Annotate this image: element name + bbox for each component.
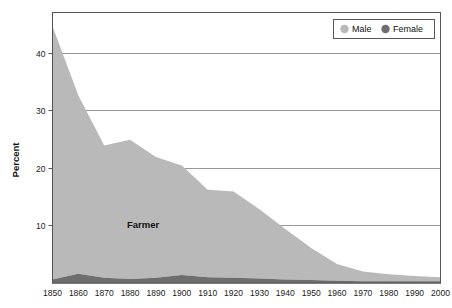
x-tick-label: 1920 bbox=[224, 288, 243, 298]
legend-label-male[interactable]: Male bbox=[352, 24, 372, 34]
farmer-occupation-area-chart: 10203040 1850186018701880189019001910192… bbox=[0, 0, 452, 308]
x-tick-label: 1850 bbox=[43, 288, 62, 298]
legend-label-female[interactable]: Female bbox=[393, 24, 423, 34]
chart-canvas: 10203040 1850186018701880189019001910192… bbox=[0, 0, 452, 308]
x-tick-label: 2000 bbox=[431, 288, 450, 298]
x-tick-label: 1910 bbox=[198, 288, 217, 298]
x-tick-label: 1990 bbox=[405, 288, 424, 298]
y-tick-label: 40 bbox=[36, 49, 46, 59]
x-tick-label: 1860 bbox=[69, 288, 88, 298]
x-tick-label: 1950 bbox=[302, 288, 321, 298]
legend-marker-female-icon bbox=[381, 25, 389, 33]
x-tick-label: 1890 bbox=[147, 288, 166, 298]
x-tick-label: 1980 bbox=[379, 288, 398, 298]
x-tick-label: 1900 bbox=[172, 288, 191, 298]
y-tick-label: 20 bbox=[36, 164, 46, 174]
area-label-farmer: Farmer bbox=[127, 219, 160, 230]
x-tick-label: 1930 bbox=[250, 288, 269, 298]
chart-legend[interactable]: MaleFemale bbox=[334, 20, 435, 39]
y-tick-label: 10 bbox=[36, 221, 46, 231]
y-tick-label: 30 bbox=[36, 106, 46, 116]
x-tick-label: 1870 bbox=[95, 288, 114, 298]
x-tick-label: 1880 bbox=[121, 288, 140, 298]
x-tick-label: 1960 bbox=[328, 288, 347, 298]
series-annotations: Farmer bbox=[127, 219, 160, 230]
legend-marker-male-icon bbox=[340, 25, 348, 33]
y-axis-title: Percent bbox=[10, 142, 21, 178]
x-tick-label: 1970 bbox=[353, 288, 372, 298]
x-tick-label: 1940 bbox=[276, 288, 295, 298]
